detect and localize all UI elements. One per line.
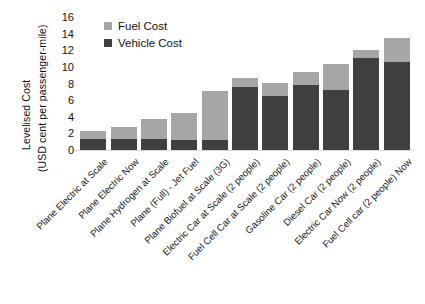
bar-chart: Levelised Cost (USD cent per passenger-m… bbox=[0, 0, 425, 304]
x-axis-labels: Plane Electric at ScalePlane Electric No… bbox=[0, 0, 425, 304]
